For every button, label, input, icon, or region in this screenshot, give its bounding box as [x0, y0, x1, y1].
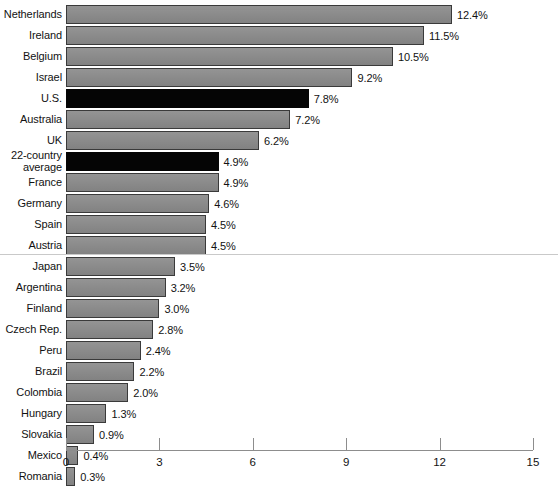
- category-label: Austria: [0, 235, 62, 256]
- category-label: Australia: [0, 109, 62, 130]
- bar-row: Belgium10.5%: [0, 46, 558, 67]
- bar: [66, 467, 75, 486]
- bar-value-label: 7.2%: [295, 109, 320, 130]
- category-label: Israel: [0, 67, 62, 88]
- category-label: Peru: [0, 340, 62, 361]
- bar: [66, 152, 219, 171]
- bar-row: Finland3.0%: [0, 298, 558, 319]
- category-label: Brazil: [0, 361, 62, 382]
- bar-value-label: 2.4%: [146, 340, 171, 361]
- category-label: Argentina: [0, 277, 62, 298]
- bar-value-label: 4.9%: [224, 151, 249, 172]
- bar: [66, 425, 94, 444]
- category-label: 22-country average: [0, 151, 62, 172]
- bar-row: Spain4.5%: [0, 214, 558, 235]
- bar-value-label: 1.3%: [111, 403, 136, 424]
- bar-value-label: 4.5%: [211, 235, 236, 256]
- x-axis-tick-label: 6: [233, 456, 273, 468]
- bar-value-label: 3.0%: [164, 298, 189, 319]
- category-label: Germany: [0, 193, 62, 214]
- bar: [66, 194, 209, 213]
- category-label: Spain: [0, 214, 62, 235]
- category-label: UK: [0, 130, 62, 151]
- bar-row: Colombia2.0%: [0, 382, 558, 403]
- bar: [66, 131, 259, 150]
- category-label: Romania: [0, 466, 62, 487]
- bar-row: Peru2.4%: [0, 340, 558, 361]
- group-divider: [0, 254, 558, 255]
- category-label: Netherlands: [0, 4, 62, 25]
- bar-value-label: 4.9%: [224, 172, 249, 193]
- bar-row: Japan3.5%: [0, 256, 558, 277]
- x-axis-tick: [159, 438, 160, 450]
- bar: [66, 299, 159, 318]
- bar: [66, 173, 219, 192]
- bar-row: Israel9.2%: [0, 67, 558, 88]
- x-axis-tick-label: 9: [326, 456, 366, 468]
- bar-row: Argentina3.2%: [0, 277, 558, 298]
- category-label: Belgium: [0, 46, 62, 67]
- x-axis-tick: [440, 438, 441, 450]
- bar-row: Slovakia0.9%: [0, 424, 558, 445]
- bar-value-label: 0.4%: [83, 445, 108, 466]
- bar: [66, 26, 424, 45]
- bar-row: Brazil2.2%: [0, 361, 558, 382]
- bar: [66, 5, 452, 24]
- category-label: Ireland: [0, 25, 62, 46]
- bar: [66, 341, 141, 360]
- bar: [66, 383, 128, 402]
- bar-row: UK6.2%: [0, 130, 558, 151]
- category-label: Slovakia: [0, 424, 62, 445]
- category-label: Finland: [0, 298, 62, 319]
- bar-row: Germany4.6%: [0, 193, 558, 214]
- bar-row: U.S.7.8%: [0, 88, 558, 109]
- bar: [66, 110, 290, 129]
- x-axis-line: [66, 450, 533, 451]
- bar: [66, 215, 206, 234]
- bar: [66, 278, 166, 297]
- bar-value-label: 4.5%: [211, 214, 236, 235]
- bar-row: Hungary1.3%: [0, 403, 558, 424]
- bar-row: Romania0.3%: [0, 466, 558, 487]
- bar-value-label: 12.4%: [457, 4, 488, 25]
- bar-row: France4.9%: [0, 172, 558, 193]
- bar-value-label: 2.2%: [139, 361, 164, 382]
- x-axis-tick-label: 0: [46, 456, 86, 468]
- bar: [66, 236, 206, 255]
- category-label: U.S.: [0, 88, 62, 109]
- bar-value-label: 9.2%: [357, 67, 382, 88]
- bar-value-label: 7.8%: [314, 88, 339, 109]
- category-label: Hungary: [0, 403, 62, 424]
- category-label: Japan: [0, 256, 62, 277]
- x-axis-tick: [346, 438, 347, 450]
- bar-row: Australia7.2%: [0, 109, 558, 130]
- bar-value-label: 11.5%: [429, 25, 459, 46]
- x-axis-tick-label: 15: [513, 456, 553, 468]
- bar-value-label: 0.3%: [80, 466, 105, 487]
- x-axis-tick: [66, 438, 67, 450]
- bar: [66, 362, 134, 381]
- x-axis-tick-label: 3: [139, 456, 179, 468]
- category-label: Czech Rep.: [0, 319, 62, 340]
- bar: [66, 68, 352, 87]
- bar: [66, 320, 153, 339]
- bar: [66, 89, 309, 108]
- bar-row: Ireland11.5%: [0, 25, 558, 46]
- bar-row: Austria4.5%: [0, 235, 558, 256]
- bar-row: Netherlands12.4%: [0, 4, 558, 25]
- x-axis-tick-label: 12: [420, 456, 460, 468]
- bar-row: Czech Rep.2.8%: [0, 319, 558, 340]
- x-axis-tick: [253, 438, 254, 450]
- bar-value-label: 0.9%: [99, 424, 124, 445]
- bar-value-label: 10.5%: [398, 46, 429, 67]
- bar: [66, 47, 393, 66]
- bar: [66, 257, 175, 276]
- x-axis-tick: [533, 438, 534, 450]
- bar-value-label: 3.5%: [180, 256, 205, 277]
- category-label: Colombia: [0, 382, 62, 403]
- bar-value-label: 6.2%: [264, 130, 289, 151]
- bar-value-label: 4.6%: [214, 193, 239, 214]
- bar-value-label: 2.0%: [133, 382, 158, 403]
- bar: [66, 404, 106, 423]
